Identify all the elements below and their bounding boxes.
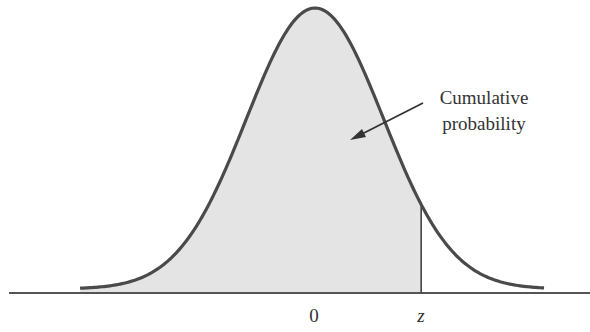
normal-distribution-chart: Cumulative probability 0 z — [0, 0, 590, 332]
x-tick-zero: 0 — [309, 305, 319, 326]
annotation-line-2: probability — [442, 113, 526, 134]
cumulative-probability-area — [80, 8, 421, 293]
annotation-line-1: Cumulative — [440, 87, 529, 108]
x-tick-z: z — [416, 305, 425, 326]
